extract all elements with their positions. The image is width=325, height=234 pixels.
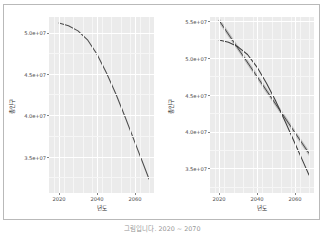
y-tick-label: 3.5e+07 — [4, 155, 46, 161]
x-tick-label: 2040 — [84, 196, 110, 202]
y-tick-label: 4.5e+07 — [4, 72, 46, 78]
x-tick-label: 2060 — [282, 196, 308, 202]
y-tick-label: 4.0e+07 — [4, 113, 46, 119]
y-tick-label: 4.0e+07 — [163, 129, 207, 135]
figure-caption: 그림입니다. 2020 ~ 2070 — [0, 224, 325, 234]
figure-container: 총인구 5.0e+07 4.5e+07 4.0e+07 3.5e+07 — [0, 0, 325, 234]
x-axis-title-right: 년도 — [244, 204, 280, 212]
x-tickmark — [135, 193, 136, 195]
x-tick-label: 2020 — [206, 196, 232, 202]
x-tick-label: 2020 — [46, 196, 72, 202]
figure-frame: 총인구 5.0e+07 4.5e+07 4.0e+07 3.5e+07 — [3, 4, 320, 220]
y-tick-label: 5.0e+07 — [163, 56, 207, 62]
chart-panel-right: 총인구 5.5e+07 5.0e+07 4.5e+07 4.0e+07 3.5e… — [162, 5, 321, 219]
y-tick-label: 5.5e+07 — [163, 19, 207, 25]
y-tick-label: 3.5e+07 — [163, 166, 207, 172]
y-tick-label: 5.0e+07 — [4, 30, 46, 36]
y-tick-label: 4.5e+07 — [163, 93, 207, 99]
x-tick-label: 2060 — [122, 196, 148, 202]
x-axis-title-left: 년도 — [84, 204, 120, 212]
y-axis-title-left: 총인구 — [8, 90, 16, 114]
plot-area-left — [49, 17, 154, 193]
x-tickmark — [295, 193, 296, 195]
x-tickmark — [59, 193, 60, 195]
chart-panel-left: 총인구 5.0e+07 4.5e+07 4.0e+07 3.5e+07 — [4, 5, 162, 219]
x-tickmark — [257, 193, 258, 195]
x-tickmark — [97, 193, 98, 195]
x-tick-label: 2040 — [244, 196, 270, 202]
x-tickmark — [219, 193, 220, 195]
plot-area-right — [210, 17, 314, 193]
